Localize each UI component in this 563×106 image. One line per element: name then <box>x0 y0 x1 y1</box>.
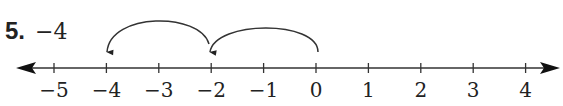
tick-label: 1 <box>362 78 375 102</box>
tick-label: −5 <box>39 78 68 102</box>
tick-label: −1 <box>249 78 278 102</box>
tick-label: −4 <box>92 78 121 102</box>
tick-label: 3 <box>467 78 480 102</box>
tick-label: −2 <box>196 78 225 102</box>
tick-label: 0 <box>310 78 323 102</box>
jump-arc-neg2-to-neg4 <box>107 21 209 52</box>
tick-label: 4 <box>519 78 532 102</box>
jump-arc-0-to-neg2 <box>210 28 318 52</box>
tick-label: 2 <box>414 78 427 102</box>
tick-label: −3 <box>144 78 173 102</box>
tick-labels: −5−4−3−2−101234 <box>39 78 532 102</box>
number-line: −5−4−3−2−101234 <box>0 0 563 106</box>
